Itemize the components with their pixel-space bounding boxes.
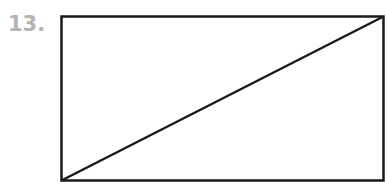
rectangle-diagram [0, 0, 387, 182]
diagonal-line [62, 17, 384, 181]
